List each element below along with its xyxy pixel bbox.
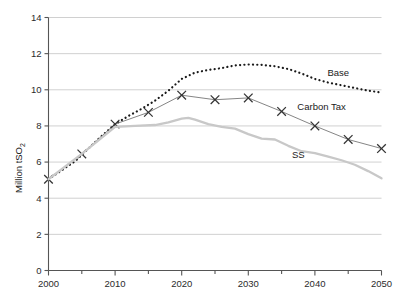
plot-background — [0, 0, 409, 303]
y-tick-label: 10 — [31, 84, 42, 95]
chart-container: 02468101214 200020102020203020402050 Bas… — [0, 0, 409, 303]
x-tick-label: 2050 — [371, 278, 392, 289]
series-label-carbon-tax: Carbon Tax — [297, 101, 346, 112]
x-tick-label: 2040 — [304, 278, 325, 289]
x-tick-label: 2030 — [238, 278, 259, 289]
series-label-ss: SS — [292, 149, 305, 160]
y-title-subscript: 2 — [19, 143, 26, 147]
y-axis-title-text: Million tSO2 — [13, 143, 26, 193]
y-tick-label: 12 — [31, 48, 42, 59]
y-tick-label: 0 — [36, 265, 41, 276]
y-tick-label: 4 — [36, 193, 41, 204]
so2-emissions-line-chart: 02468101214 200020102020203020402050 Bas… — [0, 0, 409, 303]
x-tick-label: 2020 — [171, 278, 192, 289]
y-axis-title: Million tSO2 — [13, 143, 26, 193]
y-tick-label: 2 — [36, 229, 41, 240]
x-tick-label: 2010 — [105, 278, 126, 289]
y-tick-label: 8 — [36, 120, 41, 131]
y-tick-label: 14 — [31, 12, 42, 23]
x-tick-label: 2000 — [38, 278, 59, 289]
y-tick-label: 6 — [36, 156, 41, 167]
series-label-base: Base — [327, 67, 349, 78]
y-title-main: Million tSO — [13, 147, 24, 193]
